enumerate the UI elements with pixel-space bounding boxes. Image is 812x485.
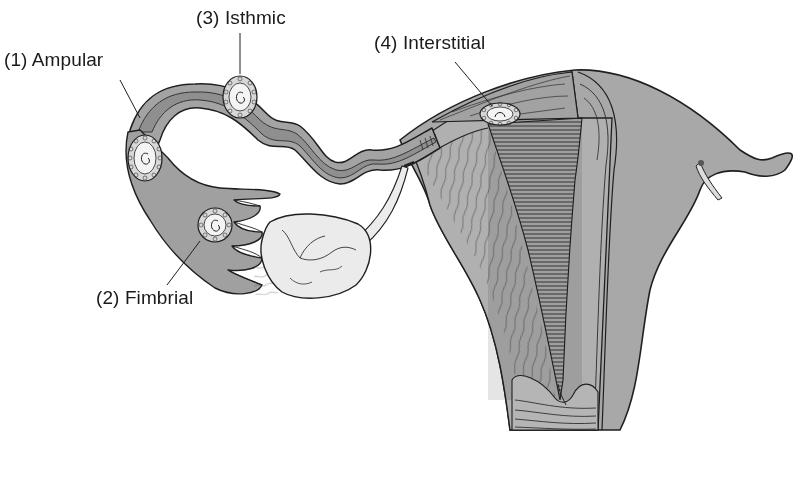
ectopic-pregnancy-sites-diagram: (1) Ampular (2) Fimbrial (3) Isthmic (4)… [0, 0, 812, 485]
anatomy-illustration [0, 0, 812, 485]
interstitial-implantation-site [480, 102, 520, 126]
ovary [261, 214, 371, 298]
label-isthmic: (3) Isthmic [196, 8, 286, 27]
isthmic-implantation-site [223, 76, 257, 118]
leader-line-ampular [120, 80, 140, 118]
label-fimbrial: (2) Fimbrial [96, 288, 193, 307]
ampular-implantation-site [128, 135, 162, 181]
fimbrial-implantation-site [198, 208, 232, 242]
label-interstitial: (4) Interstitial [374, 33, 485, 52]
label-ampular: (1) Ampular [4, 50, 103, 69]
uterus [400, 70, 792, 430]
